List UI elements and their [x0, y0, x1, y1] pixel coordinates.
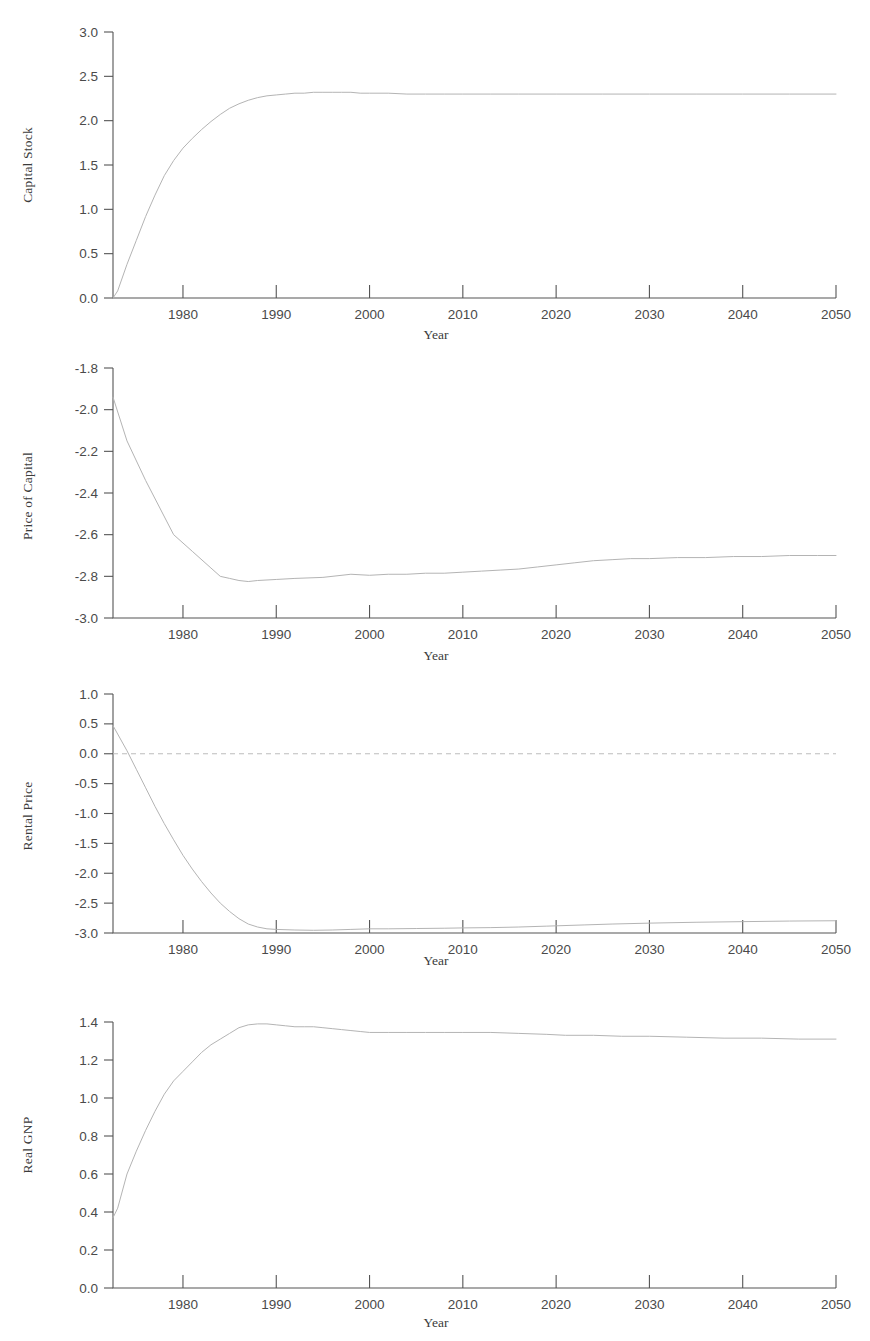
- y-tick-label: -2.0: [75, 866, 98, 881]
- x-tick-label: 2050: [821, 307, 851, 322]
- y-tick-label: 0.2: [79, 1243, 98, 1258]
- y-tick-label: -3.0: [75, 611, 98, 626]
- y-axis-label-rental-price: Rental Price: [20, 764, 36, 868]
- x-tick-label: 1980: [168, 627, 198, 642]
- x-tick-label: 1990: [261, 307, 291, 322]
- x-tick-label: 1990: [261, 942, 291, 957]
- data-series-line: [113, 92, 836, 298]
- y-tick-label: 0.5: [79, 716, 98, 731]
- y-tick-label: 0.6: [79, 1167, 98, 1182]
- y-tick-label: 1.0: [79, 1091, 98, 1106]
- x-tick-label: 2050: [821, 942, 851, 957]
- y-tick-label: -2.4: [75, 486, 99, 501]
- x-tick-label: 2000: [355, 1297, 385, 1312]
- y-tick-label: 3.0: [79, 25, 98, 40]
- y-tick-label: -2.2: [75, 444, 98, 459]
- x-tick-label: 2030: [634, 307, 664, 322]
- y-tick-label: 0.8: [79, 1129, 98, 1144]
- x-tick-label: 2040: [728, 307, 758, 322]
- y-axis-label-price-of-capital: Price of Capital: [20, 441, 36, 551]
- x-tick-label: 2030: [634, 627, 664, 642]
- x-tick-label: 2020: [541, 627, 571, 642]
- y-axis-label-real-gnp: Real GNP: [20, 1097, 36, 1193]
- plot-price-of-capital: -3.0-2.8-2.6-2.4-2.2-2.0-1.8198019902000…: [0, 350, 870, 680]
- y-tick-label: 1.2: [79, 1053, 98, 1068]
- x-tick-label: 2040: [728, 1297, 758, 1312]
- y-tick-label: 0.0: [79, 746, 98, 761]
- x-tick-label: 1980: [168, 307, 198, 322]
- plot-rental-price: -3.0-2.5-2.0-1.5-1.0-0.50.00.51.01980199…: [0, 680, 870, 985]
- x-tick-label: 2030: [634, 1297, 664, 1312]
- y-tick-label: -0.5: [75, 776, 98, 791]
- plot-real-gnp: 0.00.20.40.60.81.01.21.41980199020002010…: [0, 985, 870, 1341]
- y-tick-label: -2.0: [75, 402, 98, 417]
- x-tick-label: 2030: [634, 942, 664, 957]
- panel-capital-stock: Capital Stock 0.00.51.01.52.02.53.019801…: [0, 0, 870, 350]
- y-tick-label: 1.5: [79, 158, 98, 173]
- x-tick-label: 1980: [168, 942, 198, 957]
- y-tick-label: 0.0: [79, 291, 98, 306]
- panel-rental-price: Rental Price -3.0-2.5-2.0-1.5-1.0-0.50.0…: [0, 680, 870, 985]
- y-tick-label: 1.0: [79, 202, 98, 217]
- x-tick-label: 1980: [168, 1297, 198, 1312]
- y-tick-label: -1.5: [75, 836, 98, 851]
- data-series-line: [113, 1024, 836, 1218]
- x-tick-label: 2040: [728, 942, 758, 957]
- x-tick-label: 2020: [541, 1297, 571, 1312]
- x-tick-label: 2010: [448, 307, 478, 322]
- y-tick-label: 2.0: [79, 113, 98, 128]
- y-tick-label: 0.5: [79, 246, 98, 261]
- panel-real-gnp: Real GNP 0.00.20.40.60.81.01.21.41980199…: [0, 985, 870, 1341]
- x-tick-label: 2020: [541, 942, 571, 957]
- y-tick-label: 0.0: [79, 1281, 98, 1296]
- y-tick-label: -2.5: [75, 896, 98, 911]
- y-tick-label: -1.8: [75, 361, 98, 376]
- x-tick-label: 2050: [821, 627, 851, 642]
- x-tick-label: 2010: [448, 627, 478, 642]
- y-tick-label: 0.4: [79, 1205, 98, 1220]
- x-axis-label-rental-price: Year: [406, 953, 466, 969]
- figure-page: Capital Stock 0.00.51.01.52.02.53.019801…: [0, 0, 870, 1341]
- x-tick-label: 2020: [541, 307, 571, 322]
- x-tick-label: 1990: [261, 1297, 291, 1312]
- x-tick-label: 1990: [261, 627, 291, 642]
- plot-capital-stock: 0.00.51.01.52.02.53.01980199020002010202…: [0, 0, 870, 350]
- y-tick-label: -2.8: [75, 569, 98, 584]
- panel-price-of-capital: Price of Capital -3.0-2.8-2.6-2.4-2.2-2.…: [0, 350, 870, 680]
- y-tick-label: -1.0: [75, 806, 98, 821]
- y-tick-label: 1.4: [79, 1015, 98, 1030]
- x-tick-label: 2000: [355, 942, 385, 957]
- x-tick-label: 2050: [821, 1297, 851, 1312]
- data-series-line: [113, 726, 836, 931]
- data-series-line: [113, 397, 836, 581]
- x-tick-label: 2010: [448, 1297, 478, 1312]
- y-axis-label-capital-stock: Capital Stock: [20, 115, 36, 215]
- y-tick-label: 1.0: [79, 687, 98, 702]
- x-tick-label: 2000: [355, 307, 385, 322]
- y-tick-label: 2.5: [79, 69, 98, 84]
- y-tick-label: -2.6: [75, 527, 98, 542]
- y-tick-label: -3.0: [75, 926, 98, 941]
- x-tick-label: 2040: [728, 627, 758, 642]
- x-axis-label-capital-stock: Year: [406, 327, 466, 343]
- x-axis-label-real-gnp: Year: [406, 1315, 466, 1331]
- x-axis-label-price-of-capital: Year: [406, 648, 466, 664]
- x-tick-label: 2000: [355, 627, 385, 642]
